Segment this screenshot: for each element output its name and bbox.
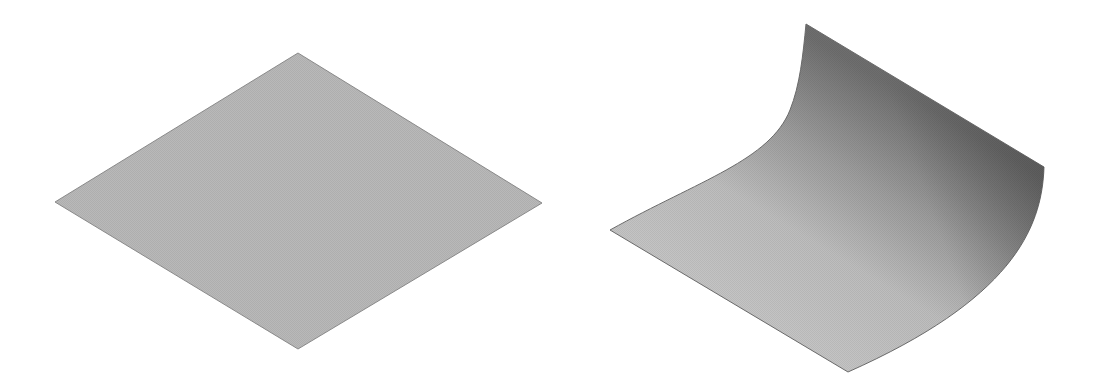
- curved-surface-texture: [610, 24, 1044, 372]
- flat-surface: [55, 53, 542, 349]
- flat-surface-texture: [55, 53, 542, 349]
- diagram-canvas: [0, 0, 1098, 384]
- curved-surface: [610, 24, 1044, 372]
